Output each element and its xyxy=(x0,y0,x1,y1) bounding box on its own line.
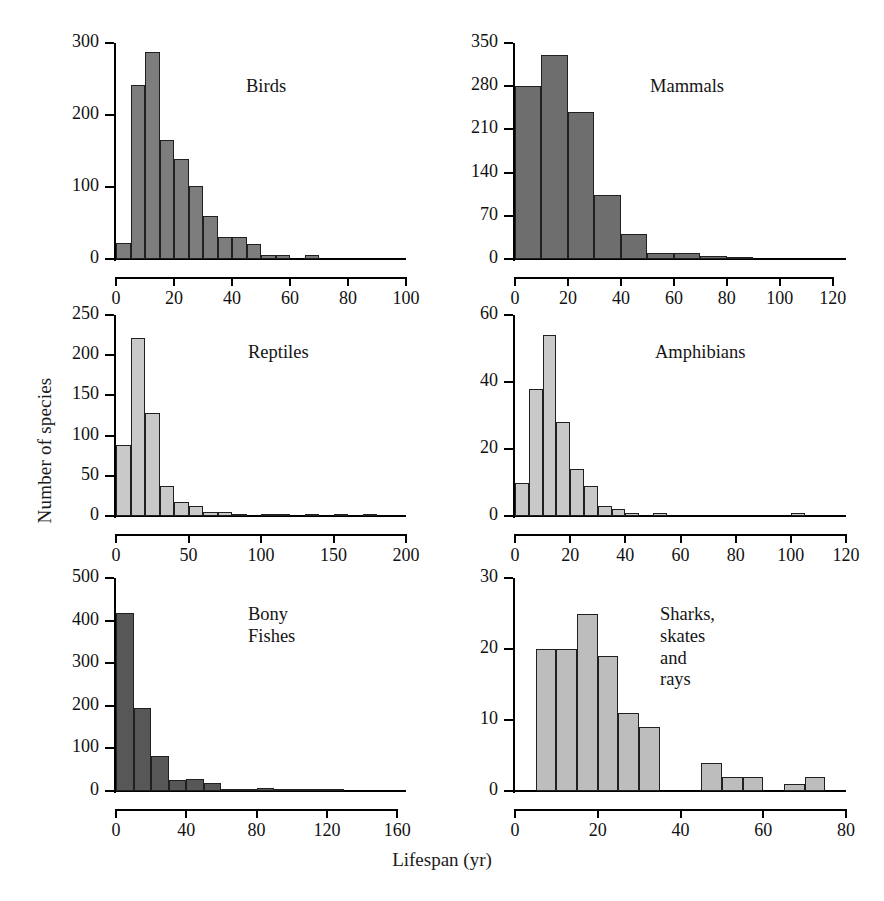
histogram-bar xyxy=(276,255,291,259)
x-tick xyxy=(173,277,175,286)
y-tick-label: 70 xyxy=(415,204,498,225)
histogram-bar xyxy=(116,613,134,791)
x-tick xyxy=(115,534,117,543)
y-tick-label: 400 xyxy=(16,609,99,630)
histogram-bar xyxy=(218,512,233,516)
x-tick xyxy=(396,809,398,818)
x-axis-label-text: Lifespan (yr) xyxy=(392,849,492,870)
x-tick xyxy=(845,534,847,543)
x-tick xyxy=(673,277,675,286)
histogram-bar xyxy=(174,159,189,259)
x-tick xyxy=(185,809,187,818)
x-tick xyxy=(832,277,834,286)
y-tick xyxy=(105,515,114,517)
histogram-bar xyxy=(131,338,146,516)
y-tick xyxy=(504,128,513,130)
x-tick xyxy=(188,534,190,543)
y-tick xyxy=(504,648,513,650)
x-tick xyxy=(680,534,682,543)
x-tick xyxy=(620,277,622,286)
x-axis-label: Lifespan (yr) xyxy=(0,849,884,871)
y-tick-label: 150 xyxy=(16,383,99,404)
y-tick xyxy=(105,354,114,356)
figure-histogram-grid: Number of species Lifespan (yr) 01002003… xyxy=(0,0,884,901)
histogram-bar xyxy=(647,253,673,259)
x-tick-label: 0 xyxy=(76,545,156,566)
histogram-bar xyxy=(203,512,218,516)
y-tick-label: 500 xyxy=(16,566,99,587)
x-tick-label: 50 xyxy=(149,545,229,566)
histogram-bar xyxy=(134,708,152,791)
x-tick xyxy=(256,809,258,818)
y-tick xyxy=(105,790,114,792)
y-tick xyxy=(105,186,114,188)
histogram-bar xyxy=(116,243,131,259)
histogram-bar xyxy=(174,502,189,516)
y-tick-label: 200 xyxy=(16,694,99,715)
x-tick xyxy=(514,809,516,818)
histogram-bar xyxy=(232,237,247,259)
y-tick-label: 0 xyxy=(16,779,99,800)
histogram-bar xyxy=(570,469,584,516)
histogram-bar xyxy=(232,514,247,517)
histogram-bar xyxy=(529,389,543,516)
histogram-bar xyxy=(722,777,743,791)
y-tick-label: 40 xyxy=(415,370,498,391)
x-tick-label: 150 xyxy=(294,545,374,566)
y-tick-label: 280 xyxy=(415,74,498,95)
y-tick xyxy=(504,719,513,721)
y-tick-label: 0 xyxy=(415,247,498,268)
y-tick-label: 30 xyxy=(415,566,498,587)
x-tick xyxy=(289,277,291,286)
histogram-bar xyxy=(239,789,257,792)
y-tick xyxy=(504,790,513,792)
histogram-bar xyxy=(305,514,320,517)
histogram-bar xyxy=(536,649,557,791)
x-tick xyxy=(845,809,847,818)
y-tick xyxy=(105,435,114,437)
histogram-bar xyxy=(247,244,262,259)
x-tick xyxy=(115,277,117,286)
histogram-bar xyxy=(515,483,529,517)
histogram-bar xyxy=(274,789,292,792)
y-tick xyxy=(105,577,114,579)
histogram-bar xyxy=(577,614,598,792)
histogram-bar xyxy=(700,256,726,259)
histogram-bar xyxy=(727,257,753,260)
y-tick xyxy=(105,747,114,749)
y-axis-line xyxy=(513,578,515,793)
y-tick-label: 0 xyxy=(16,247,99,268)
histogram-bar xyxy=(621,234,647,259)
histogram-bar xyxy=(186,779,204,791)
y-tick xyxy=(504,85,513,87)
x-tick-label: 40 xyxy=(146,820,226,841)
histogram-bar xyxy=(598,656,619,791)
y-tick xyxy=(105,394,114,396)
x-tick xyxy=(569,534,571,543)
x-axis-line xyxy=(116,277,406,279)
histogram-bar xyxy=(145,413,160,516)
y-tick-label: 210 xyxy=(415,117,498,138)
x-tick xyxy=(779,277,781,286)
panel-title: Mammals xyxy=(650,76,724,98)
histogram-bar xyxy=(784,784,805,791)
x-tick xyxy=(405,277,407,286)
x-tick-label: 160 xyxy=(357,820,437,841)
histogram-bar xyxy=(791,513,805,516)
y-tick-label: 300 xyxy=(16,31,99,52)
y-tick-label: 300 xyxy=(16,651,99,672)
histogram-bar xyxy=(160,140,175,259)
panel-title: Amphibians xyxy=(655,342,745,364)
y-tick xyxy=(504,258,513,260)
histogram-bar xyxy=(363,514,378,517)
panel-title: Birds xyxy=(246,76,286,98)
y-tick xyxy=(504,172,513,174)
histogram-bar xyxy=(556,649,577,791)
histogram-bar xyxy=(203,216,218,259)
histogram-bar xyxy=(612,509,626,516)
histogram-bar xyxy=(598,506,612,516)
histogram-bar xyxy=(145,52,160,259)
x-tick xyxy=(680,809,682,818)
panel-title: Bony Fishes xyxy=(248,604,295,648)
histogram-bar xyxy=(334,514,349,517)
